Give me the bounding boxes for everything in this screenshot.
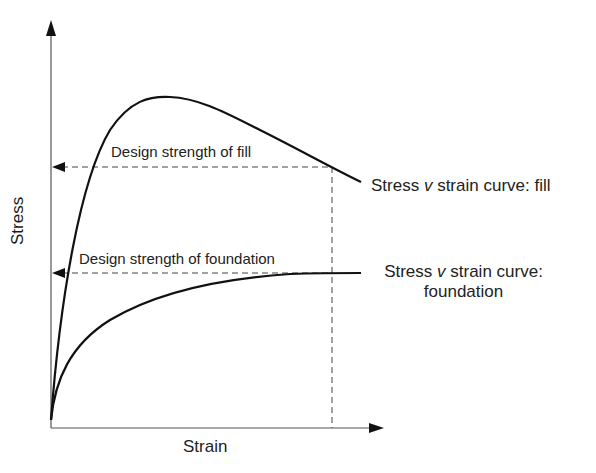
x-axis-label: Strain — [183, 437, 227, 457]
design-fill-arrow-icon — [52, 162, 65, 172]
fill-label-post: strain curve: fill — [432, 176, 550, 195]
y-axis-label: Stress — [8, 197, 28, 245]
y-axis-arrow-icon — [46, 20, 56, 36]
fill-label-pre: Stress — [371, 176, 424, 195]
design-fill-label: Design strength of fill — [111, 143, 251, 160]
stress-strain-diagram — [0, 0, 596, 473]
design-foundation-arrow-icon — [52, 268, 65, 278]
foundation-label-v: v — [437, 262, 446, 281]
foundation-curve — [51, 273, 361, 420]
foundation-label-line2: foundation — [371, 282, 556, 302]
foundation-label-post: strain curve: — [446, 262, 543, 281]
fill-curve-label: Stress v strain curve: fill — [371, 176, 551, 196]
foundation-label-line1: Stress v strain curve: — [371, 262, 556, 282]
foundation-label-pre: Stress — [384, 262, 437, 281]
foundation-curve-label: Stress v strain curve: foundation — [371, 262, 556, 302]
design-foundation-label: Design strength of foundation — [79, 250, 275, 267]
x-axis-arrow-icon — [369, 423, 384, 433]
